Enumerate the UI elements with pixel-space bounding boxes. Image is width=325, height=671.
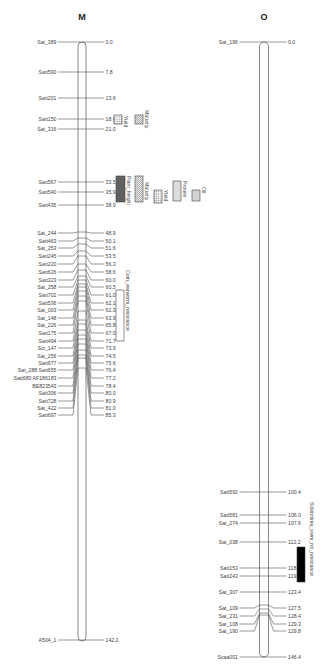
marker-name: Satt323 <box>39 277 57 283</box>
marker: Satt20113.6 <box>39 95 116 101</box>
marker-position: 77.2 <box>106 375 116 381</box>
marker-name: Satt626 <box>39 269 57 275</box>
marker-name: Sat_288 Satt655 <box>18 367 57 373</box>
marker-name: Satt494 <box>39 338 57 344</box>
marker-name: Sat_226 <box>37 322 56 328</box>
marker-name: Scaa001 <box>218 654 239 660</box>
marker-name: Satt590 <box>39 69 57 75</box>
marker-name: Sat_274 <box>219 520 238 526</box>
qtl-label: Plant_height <box>126 176 132 205</box>
chromosome-title: M <box>78 12 86 22</box>
marker-position: 123.4 <box>288 589 301 595</box>
marker-position: 100.4 <box>288 489 301 495</box>
qtl-maturity: Maturity <box>135 110 150 129</box>
marker-position: 80.0 <box>106 390 116 396</box>
marker-position: 48.9 <box>106 230 116 236</box>
marker: Satt56733.5 <box>39 179 116 185</box>
marker-name: Sat_244 <box>37 230 56 236</box>
marker-position: 7.8 <box>106 69 113 75</box>
marker-position: 80.9 <box>106 398 116 404</box>
marker-name: Sat_038 <box>219 539 238 545</box>
marker-name: Sat_231 <box>219 613 238 619</box>
chromosome-o: OSat_1960.0Satt592100.4Satt581106.0Sat_2… <box>218 12 302 660</box>
marker-name: Satt463 <box>39 238 57 244</box>
marker-position: 129.3 <box>288 621 301 627</box>
marker-position: 0.0 <box>106 39 113 45</box>
marker: Sat_1960.0 <box>219 39 296 45</box>
marker-name: A504_1 <box>39 637 57 643</box>
marker: Satt5907.8 <box>39 69 113 75</box>
marker-name: Satt153 <box>220 565 238 571</box>
marker-position: 21.0 <box>106 126 116 132</box>
marker: Sat_288 Satt65576.4 <box>18 335 116 373</box>
qtl-label: Oil <box>201 187 207 193</box>
marker-position: 35.9 <box>106 189 116 195</box>
marker-position: 56.3 <box>106 261 116 267</box>
marker-position: 13.6 <box>106 95 116 101</box>
marker-name: Sat_422 <box>37 405 56 411</box>
marker: Sat_25351.6 <box>37 244 116 251</box>
marker-name: Sat_256 <box>37 353 56 359</box>
marker-position: 127.5 <box>288 605 301 611</box>
marker-position: 51.6 <box>106 245 116 251</box>
marker-name: Satt592 <box>220 489 238 495</box>
qtl-plant-height: Plant_height <box>116 176 132 205</box>
marker-position: 146.4 <box>288 654 301 660</box>
marker: Satt43538.9 <box>39 202 116 208</box>
marker-name: Satt728 <box>39 398 57 404</box>
qtl-label: Corn_earworm_resistance <box>125 270 131 331</box>
chromosome-bar <box>78 42 86 641</box>
marker: Satt46350.1 <box>39 238 116 244</box>
linkage-map: MSat_3890.0Satt5907.8Satt20113.6Satt1501… <box>0 0 325 671</box>
marker-name: Sct_147 <box>37 345 56 351</box>
marker-position: 78.4 <box>106 383 116 389</box>
marker-name: Sat_307 <box>219 589 238 595</box>
qtl-label: Yield <box>163 190 169 201</box>
marker-position: 128.4 <box>288 613 301 619</box>
qtl-label: Sclerotinia_stem_rot_resistance <box>309 502 315 576</box>
marker: Sat_31621.0 <box>37 126 116 132</box>
qtl-yield: Yield <box>114 115 129 127</box>
qtl-label: Maturity <box>144 182 150 201</box>
marker-name: Sat_196 <box>219 39 238 45</box>
marker: Satt54035.9 <box>39 189 116 195</box>
marker-position: 53.5 <box>106 253 116 259</box>
qtl-label: Protein <box>182 181 188 198</box>
marker: Satt15018.6 <box>39 116 116 122</box>
marker-name: Satt175 <box>39 330 57 336</box>
marker-position: 62.1 <box>106 300 116 306</box>
marker-name: Satt245 <box>39 253 57 259</box>
qtl-label: Maturity <box>144 110 150 129</box>
marker-name: BE823543 <box>32 383 56 389</box>
marker-name: Satt536 <box>39 300 57 306</box>
marker-name: Sat_389 <box>37 39 56 45</box>
chromosome-title: O <box>260 12 267 22</box>
marker-name: Sat_190 <box>219 628 238 634</box>
marker-name: Sat_258 <box>37 284 56 290</box>
marker-position: 73.9 <box>106 345 116 351</box>
qtl-yield: Yield <box>154 190 169 203</box>
marker-position: 62.3 <box>106 307 116 313</box>
marker-name: Satt201 <box>39 95 57 101</box>
qtl-label: Yield <box>123 116 129 127</box>
marker-name: Satt220 <box>39 261 57 267</box>
marker-position: 142.2 <box>106 637 119 643</box>
marker-position: 74.5 <box>106 353 116 359</box>
marker-name: Sat_003 <box>37 307 56 313</box>
marker-position: 50.1 <box>106 238 116 244</box>
marker-position: 63.9 <box>106 315 116 321</box>
marker-name: Satt540 <box>39 189 57 195</box>
marker-name: Sat_316 <box>37 126 56 132</box>
marker-position: 107.6 <box>288 520 301 526</box>
marker-position: 0.0 <box>288 39 295 45</box>
marker-position: 129.8 <box>288 628 301 634</box>
marker-name: Satt150 <box>39 116 57 122</box>
marker-position: 58.6 <box>106 269 116 275</box>
marker-position: 71.7 <box>106 338 116 344</box>
marker-position: 75.6 <box>106 360 116 366</box>
marker-position: 61.0 <box>106 292 116 298</box>
marker: Satt680 AF18618377.2 <box>14 339 116 381</box>
chromosome-bar <box>260 42 269 657</box>
marker-name: Sat_253 <box>37 245 56 251</box>
marker-position: 38.9 <box>106 202 116 208</box>
